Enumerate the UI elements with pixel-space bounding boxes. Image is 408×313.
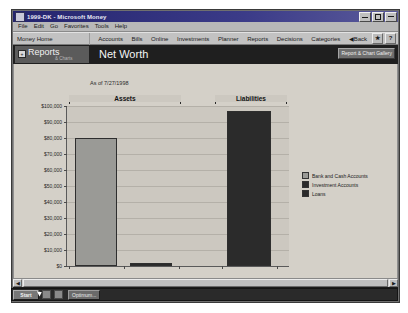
chart-plot-area: $100,000$90,000$80,000$70,000$60,000$50,…	[66, 106, 289, 267]
y-axis-tick-label: $100,000	[41, 103, 62, 109]
menu-item-edit[interactable]: Edit	[31, 22, 47, 31]
nav-item-categories[interactable]: Categories	[311, 33, 340, 45]
nav-item-investments[interactable]: Investments	[177, 33, 209, 45]
chart-as-of-label: As of 7/27/1998	[90, 80, 129, 86]
nav-item-accounts[interactable]: Accounts	[98, 33, 123, 45]
taskbar-item[interactable]: Optimum...	[68, 290, 100, 300]
y-axis-tick	[64, 202, 67, 203]
menu-bar: File Edit Go Favorites Tools Help	[13, 22, 398, 32]
money-app-icon	[15, 12, 25, 22]
legend-item-loans[interactable]: Loans	[302, 190, 388, 197]
y-axis-tick	[64, 170, 67, 171]
group-label-assets: Assets	[69, 95, 181, 102]
nav-item-money-home[interactable]: Money Home	[13, 33, 90, 45]
y-axis-tick	[64, 186, 67, 187]
legend-swatch	[302, 190, 309, 197]
close-button[interactable]	[385, 12, 397, 22]
group-bracket-liabilities: Liabilities	[215, 94, 287, 104]
y-axis-tick-label: $20,000	[44, 231, 62, 237]
nav-right-group: ◀Back ★ ?	[349, 33, 398, 44]
legend-item-bank-and-cash-accounts[interactable]: Bank and Cash Accounts	[302, 172, 388, 179]
report-chart-gallery-button[interactable]: Report & Chart Gallery	[338, 48, 395, 59]
expand-plus-icon[interactable]: +	[18, 50, 26, 58]
nav-item-bills[interactable]: Bills	[132, 33, 143, 45]
y-axis-tick	[64, 250, 67, 251]
menu-item-go[interactable]: Go	[47, 22, 61, 31]
y-axis-tick	[64, 266, 67, 267]
maximize-button[interactable]	[372, 12, 384, 22]
bar-loans[interactable]	[227, 111, 271, 266]
group-bracket-assets: Assets	[69, 94, 181, 104]
y-axis-tick	[64, 218, 67, 219]
nav-item-decisions[interactable]: Decisions	[277, 33, 303, 45]
x-axis-tick	[69, 266, 70, 269]
legend-item-investment-accounts[interactable]: Investment Accounts	[302, 181, 388, 188]
y-axis-tick-label: $50,000	[44, 183, 62, 189]
reports-and-charts-tab[interactable]: + Reports	[15, 46, 89, 63]
y-axis-tick-label: $10,000	[44, 247, 62, 253]
y-axis-tick-label: $80,000	[44, 135, 62, 141]
legend-swatch	[302, 172, 309, 179]
y-axis-tick-label: $60,000	[44, 167, 62, 173]
windows-taskbar: Start Optimum...	[11, 288, 398, 301]
y-axis-tick	[64, 234, 67, 235]
application-window: 1999-DK - Microsoft Money File Edit Go F…	[11, 9, 400, 303]
y-axis-tick	[64, 138, 67, 139]
legend-label: Loans	[312, 191, 326, 197]
y-axis-tick-label: $0	[56, 263, 62, 269]
start-button[interactable]: Start	[13, 290, 39, 300]
window-title: 1999-DK - Microsoft Money	[27, 14, 358, 20]
navigation-bar: Money Home Accounts Bills Online Investm…	[13, 32, 398, 45]
nav-links: Accounts Bills Online Investments Planne…	[90, 33, 349, 45]
bar-investment-accounts[interactable]	[130, 263, 172, 266]
question-mark-icon[interactable]: ?	[385, 33, 396, 44]
x-axis-tick	[222, 266, 223, 269]
legend-label: Bank and Cash Accounts	[312, 173, 368, 179]
y-axis-tick-label: $70,000	[44, 151, 62, 157]
y-axis-tick-label: $40,000	[44, 199, 62, 205]
gridline	[67, 106, 289, 107]
x-axis-tick	[124, 266, 125, 269]
bar-bank-and-cash-accounts[interactable]	[75, 138, 117, 266]
menu-item-help[interactable]: Help	[112, 22, 130, 31]
y-axis-tick-label: $30,000	[44, 215, 62, 221]
nav-item-online[interactable]: Online	[151, 33, 168, 45]
chart-legend: Bank and Cash Accounts Investment Accoun…	[302, 172, 388, 199]
y-axis-tick	[64, 122, 67, 123]
legend-label: Investment Accounts	[312, 182, 358, 188]
screenshot-root: 1999-DK - Microsoft Money File Edit Go F…	[0, 0, 408, 313]
page-title: Net Worth	[99, 48, 148, 60]
y-axis-tick	[64, 106, 67, 107]
clock-icon[interactable]	[54, 290, 63, 299]
minimize-button[interactable]	[359, 12, 371, 22]
scroll-right-arrow-icon[interactable]: ▶	[389, 279, 398, 287]
window-title-bar[interactable]: 1999-DK - Microsoft Money	[13, 11, 398, 22]
menu-item-tools[interactable]: Tools	[92, 22, 112, 31]
y-axis-tick-label: $90,000	[44, 119, 62, 125]
y-axis-tick	[64, 154, 67, 155]
back-button-label: Back	[354, 36, 367, 42]
nav-item-reports[interactable]: Reports	[247, 33, 268, 45]
chart-client-area: As of 7/27/1998 $100,000$90,000$80,000$7…	[13, 64, 398, 278]
menu-item-file[interactable]: File	[15, 22, 31, 31]
back-button[interactable]: ◀Back	[349, 35, 367, 42]
x-axis-tick	[277, 266, 278, 269]
report-header-band: + Reports & Charts Net Worth Report & Ch…	[13, 45, 398, 64]
horizontal-scrollbar[interactable]: ◀ ▶	[13, 278, 398, 287]
reports-tab-sublabel: & Charts	[55, 56, 73, 61]
legend-swatch	[302, 181, 309, 188]
scroll-left-arrow-icon[interactable]: ◀	[13, 279, 22, 287]
scrollbar-thumb[interactable]	[23, 279, 388, 287]
nav-item-planner[interactable]: Planner	[218, 33, 239, 45]
group-label-liabilities: Liabilities	[215, 95, 287, 102]
x-axis-tick	[179, 266, 180, 269]
star-icon[interactable]: ★	[372, 33, 383, 44]
menu-item-favorites[interactable]: Favorites	[61, 22, 92, 31]
